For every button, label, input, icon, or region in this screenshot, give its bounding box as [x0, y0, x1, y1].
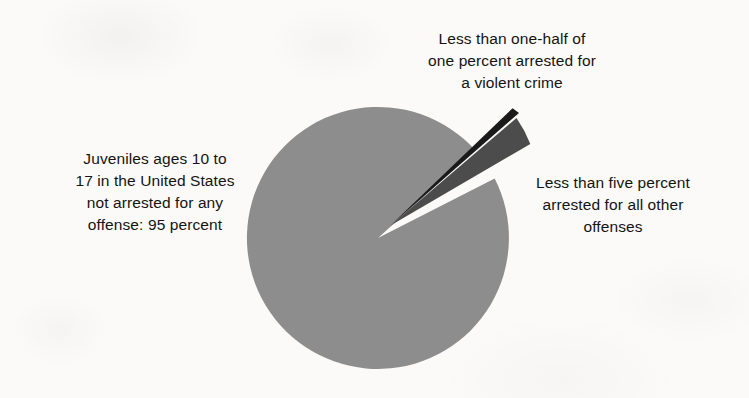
- pie-chart-figure: Less than one-half of one percent arrest…: [0, 0, 749, 398]
- label-violent-crime: Less than one-half of one percent arrest…: [396, 28, 628, 94]
- label-not-arrested: Juveniles ages 10 to 17 in the United St…: [36, 148, 274, 236]
- label-all-other-offenses: Less than five percent arrested for all …: [494, 172, 732, 238]
- pie-slice-not-arrested: [247, 107, 509, 369]
